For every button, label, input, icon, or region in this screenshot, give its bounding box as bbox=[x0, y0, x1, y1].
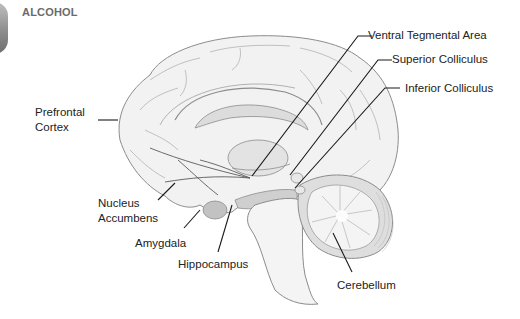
label-inferior-colliculus: Inferior Colliculus bbox=[405, 81, 493, 96]
leader-amygdala bbox=[184, 210, 200, 228]
label-cerebellum: Cerebellum bbox=[337, 278, 396, 293]
label-prefrontal-line2: Cortex bbox=[35, 120, 85, 135]
label-nucleus-line2: Accumbens bbox=[98, 211, 158, 226]
label-nucleus-accumbens: Nucleus Accumbens bbox=[98, 196, 158, 226]
label-amygdala: Amygdala bbox=[135, 236, 186, 251]
label-prefrontal-line1: Prefrontal bbox=[35, 105, 85, 120]
label-prefrontal-cortex: Prefrontal Cortex bbox=[35, 105, 85, 135]
amygdala-structure bbox=[203, 201, 227, 219]
label-nucleus-line1: Nucleus bbox=[98, 196, 158, 211]
label-superior-colliculus: Superior Colliculus bbox=[392, 52, 488, 67]
brain-diagram bbox=[0, 0, 520, 319]
label-hippocampus: Hippocampus bbox=[178, 257, 248, 272]
label-ventral-tegmental-area: Ventral Tegmental Area bbox=[368, 28, 487, 43]
